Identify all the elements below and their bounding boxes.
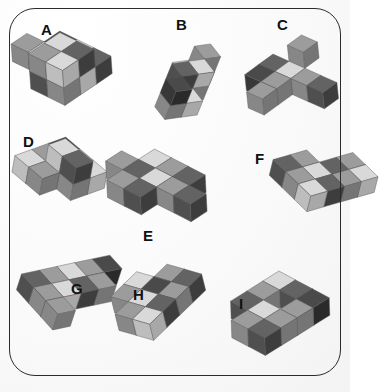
figure-label-i: I xyxy=(239,296,243,311)
figure-label-c: C xyxy=(277,17,288,32)
block-assembly-c-svg xyxy=(238,29,342,120)
block-assembly-c xyxy=(238,29,342,120)
block-assembly-d-svg xyxy=(6,126,116,210)
block-assembly-f-svg xyxy=(260,131,383,230)
block-assembly-b-svg xyxy=(148,30,227,134)
block-assembly-e-svg xyxy=(102,143,211,229)
block-assembly-i-svg xyxy=(226,266,334,360)
block-assembly-d xyxy=(6,126,116,210)
figure-label-h: H xyxy=(133,287,144,302)
block-assembly-e xyxy=(102,143,211,229)
figure-label-a: A xyxy=(41,22,52,37)
block-assembly-a-svg xyxy=(7,24,117,112)
figure-label-e: E xyxy=(143,228,153,243)
figure-label-b: B xyxy=(176,17,187,32)
figure-label-g: G xyxy=(71,281,83,296)
block-assembly-b xyxy=(148,30,227,134)
figure-label-f: F xyxy=(255,151,264,166)
block-assembly-i xyxy=(226,266,334,360)
figure-label-d: D xyxy=(23,134,34,149)
block-assembly-f xyxy=(260,131,383,230)
block-assembly-a xyxy=(7,24,117,112)
